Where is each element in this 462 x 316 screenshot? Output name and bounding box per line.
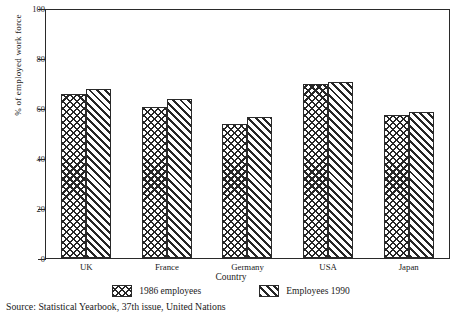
bar-group <box>368 10 449 258</box>
bar <box>167 99 192 258</box>
x-tick-label: USA <box>319 262 337 272</box>
bar-chart: % of employed work force 020406080100 UK… <box>0 0 462 316</box>
x-tick-label: Japan <box>399 262 419 272</box>
y-axis-title: % of employed work force <box>13 0 23 145</box>
x-tick-label: UK <box>80 262 93 272</box>
y-tick-mark <box>38 9 46 10</box>
legend-label: 1986 employees <box>139 286 201 296</box>
x-axis-title: Country <box>0 272 462 282</box>
source-note: Source: Statistical Yearbook, 37th issue… <box>6 301 226 312</box>
legend-item: 1986 employees <box>112 285 201 297</box>
x-tick-label: Germany <box>231 262 264 272</box>
bar-group <box>207 10 288 258</box>
legend-label: Employees 1990 <box>286 286 350 296</box>
bars-area <box>46 10 449 258</box>
bar <box>61 94 86 258</box>
legend-item: Employees 1990 <box>259 285 350 297</box>
legend-swatch-1986-icon <box>112 285 132 297</box>
legend: 1986 employees Employees 1990 <box>0 285 462 297</box>
legend-swatch-1990-icon <box>259 285 279 297</box>
bar <box>142 107 167 258</box>
bar <box>86 89 111 258</box>
bar <box>328 82 353 258</box>
bar <box>384 115 409 258</box>
bar-group <box>46 10 127 258</box>
bar <box>247 117 272 258</box>
bar-group <box>288 10 369 258</box>
y-tick-mark <box>38 109 46 110</box>
bar <box>222 124 247 258</box>
x-tick-label: France <box>155 262 179 272</box>
bar <box>303 84 328 258</box>
y-tick-mark <box>38 209 46 210</box>
y-tick-mark <box>38 59 46 60</box>
y-tick-mark <box>38 159 46 160</box>
bar <box>409 112 434 258</box>
y-tick-mark <box>38 259 46 260</box>
bar-group <box>127 10 208 258</box>
